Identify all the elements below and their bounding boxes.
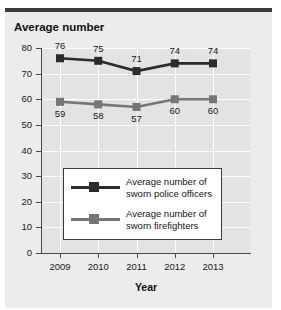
y-tick-label: 40 bbox=[8, 145, 32, 156]
x-tick-label: 2012 bbox=[155, 261, 195, 272]
data-point-label: 58 bbox=[80, 110, 116, 121]
legend-label-firefighters-line2: sworn firefighters bbox=[126, 220, 198, 231]
legend-label-police-line1: Average number of bbox=[126, 176, 207, 187]
x-tick-label: 2011 bbox=[117, 261, 157, 272]
chart-legend: Average number of sworn police officers … bbox=[63, 168, 222, 240]
y-tick-mark bbox=[36, 74, 41, 75]
x-tick-mark bbox=[137, 253, 138, 258]
x-tick-label: 2009 bbox=[40, 261, 80, 272]
x-tick-mark bbox=[175, 253, 176, 258]
y-tick-label: 80 bbox=[8, 42, 32, 53]
y-tick-mark bbox=[36, 99, 41, 100]
gridline-horizontal bbox=[41, 125, 250, 126]
data-point-label: 57 bbox=[119, 113, 155, 124]
data-point-label: 75 bbox=[80, 43, 116, 54]
legend-swatch-firefighters bbox=[71, 213, 120, 225]
x-tick-mark bbox=[213, 253, 214, 258]
gridline-horizontal bbox=[41, 99, 250, 100]
x-axis-line bbox=[41, 253, 251, 254]
y-tick-mark bbox=[36, 48, 41, 49]
y-tick-label: 60 bbox=[8, 93, 32, 104]
y-tick-mark bbox=[36, 202, 41, 203]
data-point-label: 60 bbox=[157, 105, 193, 116]
y-tick-label: 0 bbox=[8, 247, 32, 258]
legend-label-firefighters: Average number of sworn firefighters bbox=[126, 208, 220, 231]
data-point-label: 74 bbox=[157, 45, 193, 56]
y-tick-label: 50 bbox=[8, 119, 32, 130]
y-tick-mark bbox=[36, 253, 41, 254]
y-tick-mark bbox=[36, 125, 41, 126]
y-tick-mark bbox=[36, 227, 41, 228]
legend-row: Average number of sworn police officers bbox=[64, 173, 221, 205]
x-tick-mark bbox=[98, 253, 99, 258]
data-point-label: 60 bbox=[195, 105, 231, 116]
gridline-horizontal bbox=[41, 74, 250, 75]
y-tick-label: 70 bbox=[8, 68, 32, 79]
x-tick-label: 2010 bbox=[78, 261, 118, 272]
legend-row: Average number of sworn firefighters bbox=[64, 205, 221, 237]
gridline-vertical bbox=[60, 48, 61, 253]
data-point-label: 59 bbox=[42, 108, 78, 119]
data-point-label: 76 bbox=[42, 40, 78, 51]
legend-label-police-line2: sworn police officers bbox=[126, 188, 212, 199]
y-tick-label: 10 bbox=[8, 221, 32, 232]
y-axis-line bbox=[41, 48, 42, 254]
x-tick-label: 2013 bbox=[193, 261, 233, 272]
chart-title: Average number bbox=[14, 21, 104, 33]
gridline-horizontal bbox=[41, 151, 250, 152]
x-tick-mark bbox=[60, 253, 61, 258]
y-tick-label: 20 bbox=[8, 196, 32, 207]
y-tick-mark bbox=[36, 176, 41, 177]
y-tick-mark bbox=[36, 151, 41, 152]
legend-label-firefighters-line1: Average number of bbox=[126, 208, 207, 219]
chart-figure: Average number 01020304050607080 2009201… bbox=[0, 0, 281, 310]
y-tick-label: 30 bbox=[8, 170, 32, 181]
data-point-label: 71 bbox=[119, 53, 155, 64]
x-axis-title: Year bbox=[41, 281, 251, 293]
legend-label-police: Average number of sworn police officers bbox=[126, 176, 220, 199]
data-point-label: 74 bbox=[195, 45, 231, 56]
legend-swatch-police bbox=[71, 181, 120, 193]
